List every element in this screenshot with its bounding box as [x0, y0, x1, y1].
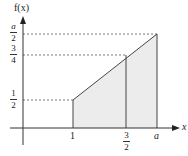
x-tick-1: 1	[70, 131, 75, 141]
x-tick-a: a	[154, 131, 159, 141]
shaded-area	[73, 34, 157, 128]
y-tick-three-quarters: 34	[10, 44, 17, 65]
x-axis-label: x	[182, 122, 186, 132]
x-tick-three-halves: 32	[123, 131, 130, 152]
diagram-canvas	[0, 0, 188, 156]
y-axis-label: f(x)	[14, 3, 29, 13]
y-tick-one-half: 12	[10, 89, 17, 110]
y-tick-a-half: a2	[10, 22, 17, 43]
y-axis-arrow-icon	[20, 16, 26, 24]
x-axis-arrow-icon	[172, 125, 180, 131]
